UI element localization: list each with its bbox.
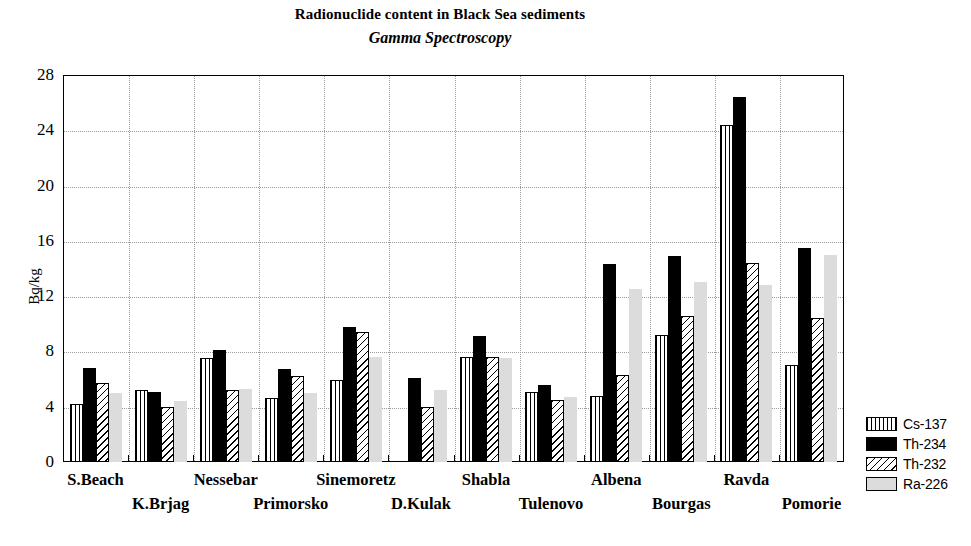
chart-figure: Radionuclide content in Black Sea sedime… bbox=[0, 0, 971, 546]
x-axis-label: Ravda bbox=[723, 470, 769, 490]
x-axis-label: Albena bbox=[591, 470, 641, 490]
legend-label: Th-234 bbox=[903, 437, 946, 451]
y-tick-label: 12 bbox=[20, 286, 54, 306]
gridline-horizontal bbox=[64, 242, 843, 243]
legend-item: Th-232 bbox=[866, 454, 966, 473]
x-axis-label: Tulenovo bbox=[519, 494, 584, 514]
gridline-vertical bbox=[780, 76, 781, 461]
legend-swatch-ra-226 bbox=[866, 477, 897, 491]
gridline-horizontal bbox=[64, 408, 843, 409]
legend-swatch-th-232 bbox=[866, 457, 897, 471]
x-axis-label: K.Brjag bbox=[132, 494, 189, 514]
legend-item: Ra-226 bbox=[866, 474, 966, 493]
chart-subtitle: Gamma Spectroscopy bbox=[0, 26, 880, 50]
gridline-vertical bbox=[455, 76, 456, 461]
legend-swatch-cs-137 bbox=[866, 417, 897, 431]
gridline-vertical bbox=[389, 76, 390, 461]
x-axis-label: S.Beach bbox=[67, 470, 123, 490]
legend-item: Cs-137 bbox=[866, 414, 966, 433]
gridline-vertical bbox=[259, 76, 260, 461]
x-axis-label: Sinemoretz bbox=[316, 470, 395, 490]
chart-title-block: Radionuclide content in Black Sea sedime… bbox=[0, 4, 880, 50]
x-axis-label: Primorsko bbox=[253, 494, 328, 514]
legend-item: Th-234 bbox=[866, 434, 966, 453]
x-axis-labels: S.BeachK.BrjagNessebarPrimorskoSinemoret… bbox=[0, 466, 971, 542]
y-tick-label: 24 bbox=[20, 120, 54, 140]
gridline-horizontal bbox=[64, 352, 843, 353]
y-tick-label: 16 bbox=[20, 231, 54, 251]
x-axis-label: Bourgas bbox=[652, 494, 711, 514]
y-tick-label: 20 bbox=[20, 176, 54, 196]
legend-swatch-th-234 bbox=[866, 437, 897, 451]
x-axis-label: Nessebar bbox=[194, 470, 258, 490]
y-tick-label: 28 bbox=[20, 65, 54, 85]
gridline-vertical bbox=[129, 76, 130, 461]
x-axis-label: D.Kulak bbox=[391, 494, 451, 514]
y-tick-label: 4 bbox=[20, 397, 54, 417]
plot-area bbox=[63, 75, 844, 462]
gridline-vertical bbox=[324, 76, 325, 461]
gridline-vertical bbox=[194, 76, 195, 461]
x-axis-label: Shabla bbox=[462, 470, 511, 490]
legend-label: Ra-226 bbox=[903, 477, 948, 491]
gridline-vertical bbox=[585, 76, 586, 461]
chart-legend: Cs-137Th-234Th-232Ra-226 bbox=[866, 414, 966, 494]
legend-label: Th-232 bbox=[903, 457, 946, 471]
gridline-horizontal bbox=[64, 297, 843, 298]
gridline-vertical bbox=[715, 76, 716, 461]
gridline-horizontal bbox=[64, 131, 843, 132]
y-tick-label: 8 bbox=[20, 341, 54, 361]
gridline-horizontal bbox=[64, 187, 843, 188]
x-axis-label: Pomorie bbox=[782, 494, 842, 514]
gridline-vertical bbox=[650, 76, 651, 461]
chart-title: Radionuclide content in Black Sea sedime… bbox=[0, 4, 880, 24]
legend-label: Cs-137 bbox=[903, 417, 947, 431]
gridline-vertical bbox=[520, 76, 521, 461]
